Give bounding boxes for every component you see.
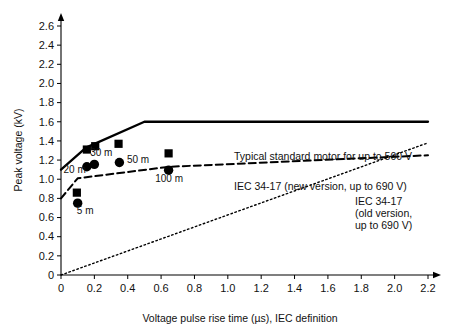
legend-label-solid-legend: Typical standard motor for up to 500 V bbox=[234, 150, 412, 162]
peak-voltage-vs-rise-time-chart: 00.20.40.60.81.01.21.41.61.82.02.200.20.… bbox=[0, 0, 466, 330]
y-tick-label: 0.8 bbox=[39, 192, 54, 204]
y-tick-label: 2.0 bbox=[39, 77, 54, 89]
y-tick-label: 1.6 bbox=[39, 116, 54, 128]
legend-line: IEC 34-17 (new version, up to 690 V) bbox=[234, 180, 407, 192]
y-tick-label: 2.4 bbox=[39, 39, 54, 51]
y-tick-label: 2.2 bbox=[39, 58, 54, 70]
circle-marker bbox=[90, 160, 99, 169]
x-tick-label: 1.4 bbox=[287, 282, 302, 294]
y-tick-label: 1.4 bbox=[39, 135, 54, 147]
square-marker bbox=[114, 140, 122, 148]
legend-line: (old version, bbox=[355, 207, 412, 219]
square-marker bbox=[165, 149, 173, 157]
x-tick-label: 0.6 bbox=[153, 282, 168, 294]
y-tick-label: 1.2 bbox=[39, 154, 54, 166]
x-axis-title: Voltage pulse rise time (µs), IEC defini… bbox=[142, 312, 337, 324]
point-label: 20 m bbox=[64, 164, 86, 175]
y-tick-label: 2.6 bbox=[39, 20, 54, 32]
circle-marker bbox=[115, 158, 124, 167]
legend-line: Typical standard motor for up to 500 V bbox=[234, 150, 412, 162]
x-tick-label: 1.2 bbox=[254, 282, 269, 294]
x-tick-label: 0.2 bbox=[87, 282, 102, 294]
x-tick-label: 2.2 bbox=[420, 282, 435, 294]
y-tick-label: 0 bbox=[48, 269, 54, 281]
point-label: 50 m bbox=[127, 154, 149, 165]
x-tick-label: 1.8 bbox=[354, 282, 369, 294]
y-axis-title: Peak voltage (kV) bbox=[12, 109, 24, 192]
y-tick-label: 1.8 bbox=[39, 96, 54, 108]
point-label: 30 m bbox=[90, 147, 112, 158]
legend-label-dashed-legend: IEC 34-17 (new version, up to 690 V) bbox=[234, 180, 407, 192]
x-tick-label: 0 bbox=[58, 282, 64, 294]
point-label: 5 m bbox=[77, 205, 94, 216]
y-tick-label: 0.2 bbox=[39, 250, 54, 262]
legend-line: up to 690 V) bbox=[355, 219, 412, 231]
y-tick-label: 0.6 bbox=[39, 211, 54, 223]
legend-line: IEC 34-17 bbox=[355, 195, 402, 207]
square-marker bbox=[73, 189, 81, 197]
point-label: 100 m bbox=[155, 173, 183, 184]
y-tick-label: 0.4 bbox=[39, 230, 54, 242]
chart-figure: 00.20.40.60.81.01.21.41.61.82.02.200.20.… bbox=[0, 0, 466, 330]
x-tick-label: 2.0 bbox=[387, 282, 402, 294]
x-tick-label: 0.4 bbox=[120, 282, 135, 294]
y-tick-label: 1.0 bbox=[39, 173, 54, 185]
x-tick-label: 0.8 bbox=[187, 282, 202, 294]
x-tick-label: 1.6 bbox=[320, 282, 335, 294]
x-tick-label: 1.0 bbox=[220, 282, 235, 294]
